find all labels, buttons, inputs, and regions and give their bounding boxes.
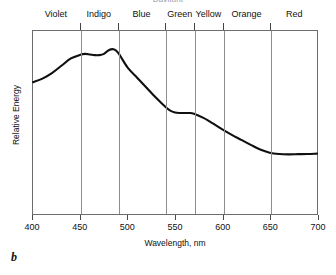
x-axis-title: Wavelength, nm: [32, 238, 318, 248]
band-divider-4: [224, 31, 225, 214]
x-tick-label-650: 650: [250, 222, 290, 233]
x-tick-label-500: 500: [107, 222, 147, 233]
band-divider-3: [195, 31, 196, 214]
x-tick-550: [175, 215, 176, 220]
x-tick-label-700: 700: [298, 222, 336, 233]
x-tick-500: [127, 215, 128, 220]
band-divider-tick-0: [80, 23, 81, 30]
band-divider-tick-5: [270, 23, 271, 30]
band-label-red: Red: [264, 9, 324, 20]
band-divider-tick-2: [165, 23, 166, 30]
x-tick-400: [32, 215, 33, 220]
chart-title: Daylight: [0, 0, 336, 2]
x-tick-600: [223, 215, 224, 220]
x-tick-label-600: 600: [203, 222, 243, 233]
panel-label: b: [11, 250, 17, 265]
band-divider-2: [166, 31, 167, 214]
x-tick-label-400: 400: [12, 222, 52, 233]
band-divider-tick-4: [223, 23, 224, 30]
spectral-curve: [33, 31, 317, 214]
color-band-strip: VioletIndigoBlueGreenYellowOrangeRed: [32, 9, 318, 30]
band-divider-1: [119, 31, 120, 214]
y-axis-title: Relative Energy: [11, 60, 21, 170]
band-divider-tick-3: [194, 23, 195, 30]
x-tick-700: [318, 215, 319, 220]
x-tick-450: [80, 215, 81, 220]
band-divider-0: [81, 31, 82, 214]
band-divider-5: [271, 31, 272, 214]
band-divider-tick-1: [118, 23, 119, 30]
x-tick-650: [270, 215, 271, 220]
figure-panel: Daylight VioletIndigoBlueGreenYellowOran…: [0, 0, 336, 275]
x-tick-label-550: 550: [155, 222, 195, 233]
plot-area: [32, 30, 318, 215]
x-tick-label-450: 450: [60, 222, 100, 233]
